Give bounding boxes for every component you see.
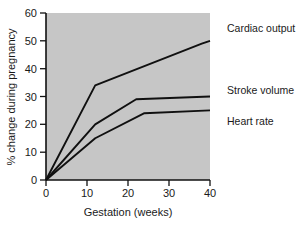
- y-ticklabel-60: 60: [25, 7, 37, 19]
- chart-figure: 0 10 20 30 40 50 60 0 10 20 30 40 % chan…: [0, 0, 300, 226]
- series-label-cardiac-output: Cardiac output: [227, 22, 295, 34]
- y-ticklabel-0: 0: [31, 174, 37, 186]
- x-axis-ticks: [46, 180, 210, 186]
- x-ticklabel-20: 20: [122, 187, 134, 199]
- y-ticklabel-10: 10: [25, 146, 37, 158]
- x-ticklabel-30: 30: [163, 187, 175, 199]
- series-label-stroke-volume: Stroke volume: [227, 84, 294, 96]
- y-axis-ticks: [40, 13, 46, 180]
- y-ticklabel-50: 50: [25, 35, 37, 47]
- x-ticklabel-0: 0: [43, 187, 49, 199]
- x-axis-title: Gestation (weeks): [84, 206, 173, 218]
- x-ticklabel-40: 40: [204, 187, 216, 199]
- y-ticklabel-30: 30: [25, 91, 37, 103]
- y-ticklabel-40: 40: [25, 63, 37, 75]
- series-label-heart-rate: Heart rate: [227, 115, 274, 127]
- y-axis-title: % change during pregnancy: [5, 28, 17, 165]
- x-ticklabel-10: 10: [81, 187, 93, 199]
- y-axis-tick-labels: 0 10 20 30 40 50 60: [25, 7, 37, 186]
- x-axis-tick-labels: 0 10 20 30 40: [43, 187, 216, 199]
- y-ticklabel-20: 20: [25, 118, 37, 130]
- line-chart-svg: 0 10 20 30 40 50 60 0 10 20 30 40 % chan…: [0, 0, 300, 226]
